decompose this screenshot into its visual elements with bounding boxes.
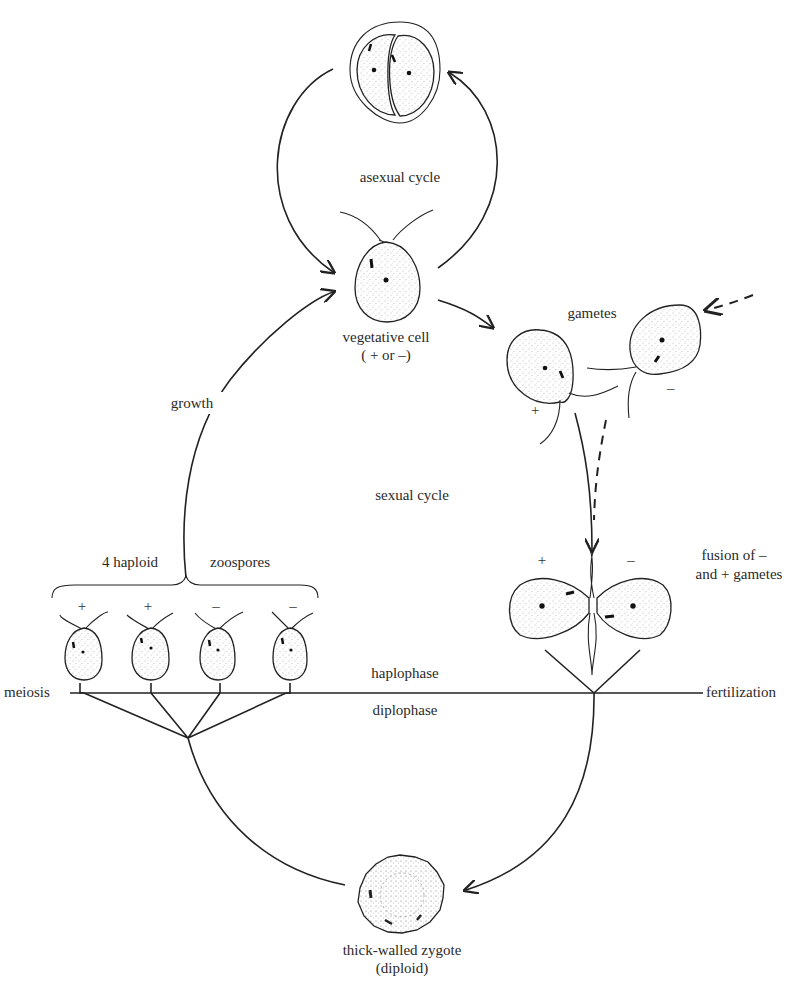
zoospore-3-icon — [195, 612, 243, 680]
arrow-to-zygote — [466, 693, 594, 890]
meiosis-label: meiosis — [4, 684, 50, 700]
fertilization-label: fertilization — [706, 684, 776, 700]
arrow-to-vegetative — [277, 69, 333, 272]
zygote-label: thick-walled zygote — [343, 942, 462, 958]
dashed-arrow-to-gamete — [707, 295, 753, 310]
sexual-cycle-label: sexual cycle — [375, 487, 449, 503]
gamete-minus-icon — [587, 305, 701, 418]
zoospores-label-left: 4 haploid — [102, 554, 159, 570]
path-from-zygote-to-meiosis — [188, 738, 345, 885]
gametes-label: gametes — [567, 305, 616, 321]
zoospore-2-sign: + — [144, 598, 152, 614]
arrow-to-division — [438, 73, 497, 268]
growth-arrow — [184, 292, 333, 578]
vegetative-cell-label: vegetative cell — [342, 329, 429, 345]
zoospores-brace — [52, 576, 318, 598]
dashed-path-to-fusion — [594, 420, 606, 520]
arrow-to-fusion — [575, 413, 592, 550]
fusing-gametes-icon — [509, 540, 671, 675]
zoospore-2-icon — [127, 613, 173, 680]
life-cycle-diagram: asexual cycle vegetative cell ( + or –) … — [0, 0, 803, 996]
gamete-plus-icon — [507, 330, 618, 444]
fusion-minus-sign: – — [626, 552, 635, 568]
diplophase-label: diplophase — [373, 702, 438, 718]
fusion-label-line1: fusion of – — [702, 547, 767, 563]
vegetative-cell-sublabel: ( + or –) — [361, 347, 411, 364]
zoospore-1-icon — [60, 612, 108, 680]
zoospore-1-sign: + — [78, 598, 86, 614]
gamete-minus-sign: – — [666, 380, 675, 396]
growth-label: growth — [171, 395, 214, 411]
zygote-icon — [358, 855, 444, 933]
zoospore-3-sign: – — [211, 598, 220, 614]
zoospores-label-right: zoospores — [210, 554, 270, 570]
vegetative-cell-icon — [340, 210, 433, 322]
zoospore-4-icon — [272, 612, 313, 680]
fusion-plus-sign: + — [538, 552, 546, 568]
arrow-to-gametes — [438, 300, 492, 327]
haplophase-label: haplophase — [371, 665, 439, 681]
dividing-cell-icon — [350, 22, 440, 123]
meiosis-tree — [80, 683, 290, 738]
gamete-plus-sign: + — [531, 402, 539, 418]
asexual-cycle-label: asexual cycle — [360, 169, 441, 185]
zygote-sublabel: (diploid) — [376, 960, 429, 977]
fusion-label-line2: and + gametes — [696, 566, 783, 582]
zoospore-4-sign: – — [288, 598, 297, 614]
